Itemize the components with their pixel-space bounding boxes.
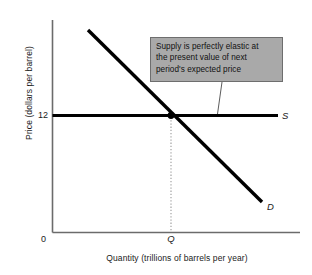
x-axis-label: Quantity (trillions of barrels per year) bbox=[52, 253, 302, 263]
annotation-text: Supply is perfectly elastic at the prese… bbox=[156, 41, 277, 75]
annotation-line-1: Supply is perfectly elastic at bbox=[156, 42, 259, 51]
annotation-leader-line bbox=[218, 82, 223, 114]
y-axis-label: Price (dollars per barrel) bbox=[24, 18, 34, 168]
origin-label: 0 bbox=[34, 234, 46, 244]
demand-curve-label: D bbox=[267, 201, 274, 212]
supply-curve-label: S bbox=[282, 110, 288, 121]
x-axis-tick-q: Q bbox=[163, 233, 179, 244]
annotation-line-2: the present value of next bbox=[156, 53, 247, 62]
annotation-line-3: period's expected price bbox=[156, 65, 241, 74]
y-axis-tick-12: 12 bbox=[33, 110, 48, 120]
supply-elasticity-annotation: Supply is perfectly elastic at the prese… bbox=[150, 37, 283, 82]
equilibrium-point bbox=[168, 112, 175, 119]
supply-demand-figure: Price (dollars per barrel) Quantity (tri… bbox=[0, 0, 312, 275]
